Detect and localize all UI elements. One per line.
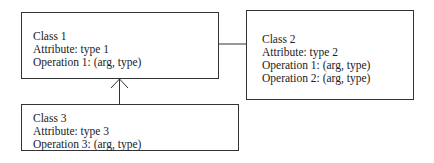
class-attribute: Attribute: type 3 [33, 125, 238, 138]
class-box-class1: Class 1 Attribute: type 1 Operation 1: (… [21, 12, 219, 79]
class-name: Class 2 [262, 33, 413, 46]
class-operation: Operation 1: (arg, type) [33, 56, 218, 69]
class-box-class3: Class 3 Attribute: type 3 Operation 3: (… [21, 104, 239, 151]
class-operation: Operation 1: (arg, type) [262, 59, 413, 72]
class-attribute: Attribute: type 2 [262, 46, 413, 59]
class-name: Class 1 [33, 30, 218, 43]
open-arrowhead-icon [111, 79, 128, 88]
class-operation: Operation 2: (arg, type) [262, 72, 413, 85]
class-attribute: Attribute: type 1 [33, 43, 218, 56]
class-name: Class 3 [33, 112, 238, 125]
class-operation: Operation 3: (arg, type) [33, 138, 238, 151]
class-box-class2: Class 2 Attribute: type 2 Operation 1: (… [246, 10, 414, 100]
